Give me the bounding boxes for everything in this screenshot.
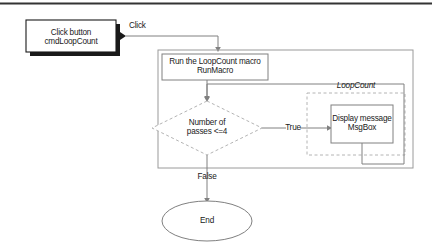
click-button-node-label: Click button cmdLoopCount [26,28,116,47]
click-edge-label: Click [129,21,169,30]
loopcount-group-label: LoopCount [316,81,396,90]
run-macro-node-line1: Run the LoopCount macro [162,57,268,66]
click-button-node-line2: cmdLoopCount [26,37,116,46]
diagram-canvas: Click button cmdLoopCount Click Run the … [0,0,432,248]
display-message-node-line1: Display message [331,114,393,123]
decision-node-label: Number of passes <=4 [157,118,257,137]
click-button-node-line1: Click button [26,28,116,37]
run-macro-node-label: Run the LoopCount macro RunMacro [162,57,268,76]
end-node-label: End [162,216,252,225]
display-message-node-line2: MsgBox [331,123,393,132]
false-edge-label: False [187,172,227,181]
decision-node-line2: passes <=4 [157,127,257,136]
click-arrowhead-icon [117,30,126,42]
run-macro-node-line2: RunMacro [162,66,268,75]
true-edge-label: True [283,123,303,132]
loop-back-arrowhead-icon [204,96,210,101]
display-message-node-label: Display message MsgBox [331,114,393,133]
click-edge-path [126,36,218,50]
decision-node-line1: Number of [157,118,257,127]
